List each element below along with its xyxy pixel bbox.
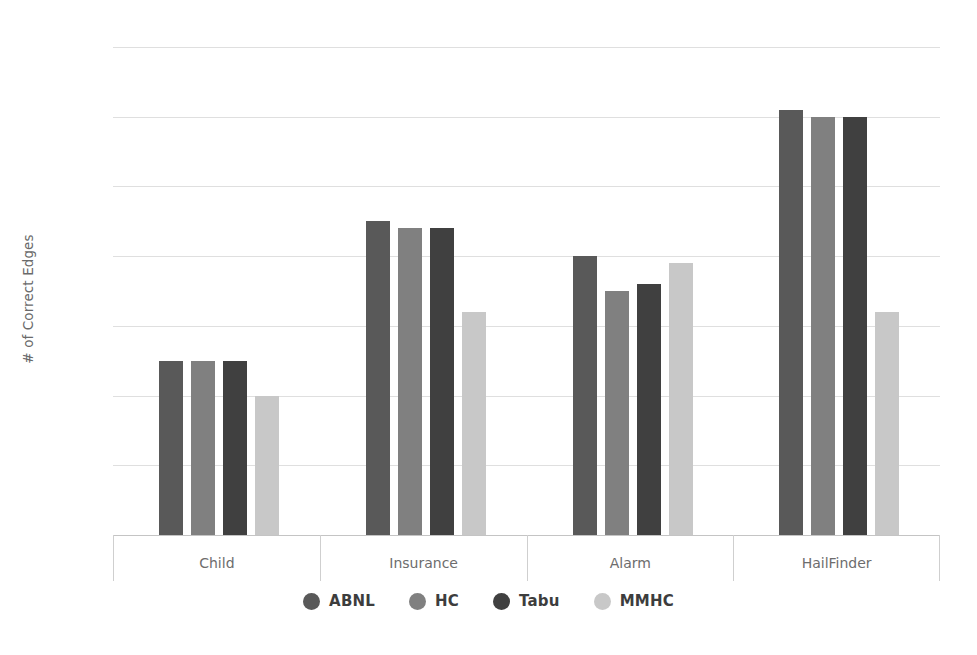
bar [637, 284, 661, 535]
legend-item-abnl[interactable]: ABNL [303, 592, 375, 610]
bar [573, 256, 597, 535]
bar [811, 117, 835, 535]
legend-item-tabu[interactable]: Tabu [493, 592, 560, 610]
category-cell-insurance: Insurance [320, 535, 527, 581]
bars-layer [113, 47, 940, 535]
plot-area: 706050403020100 [113, 47, 940, 535]
bar [779, 110, 803, 535]
legend-label: ABNL [329, 592, 375, 610]
legend: ABNLHCTabuMMHC [0, 592, 977, 610]
legend-label: MMHC [620, 592, 674, 610]
category-cell-alarm: Alarm [527, 535, 734, 581]
bar [255, 396, 279, 535]
bar-chart: # of Correct Edges 706050403020100 Child… [0, 0, 977, 655]
category-label: Insurance [321, 555, 527, 571]
legend-label: HC [435, 592, 459, 610]
legend-item-hc[interactable]: HC [409, 592, 459, 610]
bar [159, 361, 183, 535]
legend-item-mmhc[interactable]: MMHC [594, 592, 674, 610]
bar [191, 361, 215, 535]
category-cell-child: Child [113, 535, 320, 581]
bar [366, 221, 390, 535]
bar [398, 228, 422, 535]
bar [669, 263, 693, 535]
legend-circle-icon [409, 593, 426, 610]
legend-label: Tabu [519, 592, 560, 610]
legend-circle-icon [493, 593, 510, 610]
bar [875, 312, 899, 535]
category-label: Child [114, 555, 320, 571]
bar [843, 117, 867, 535]
legend-circle-icon [594, 593, 611, 610]
bar [462, 312, 486, 535]
legend-circle-icon [303, 593, 320, 610]
bar [223, 361, 247, 535]
bar [605, 291, 629, 535]
category-label: HailFinder [734, 555, 939, 571]
category-axis: ChildInsuranceAlarmHailFinder [113, 535, 940, 581]
bar [430, 228, 454, 535]
category-label: Alarm [528, 555, 734, 571]
y-axis-title: # of Correct Edges [20, 209, 36, 389]
category-cell-hailfinder: HailFinder [733, 535, 940, 581]
